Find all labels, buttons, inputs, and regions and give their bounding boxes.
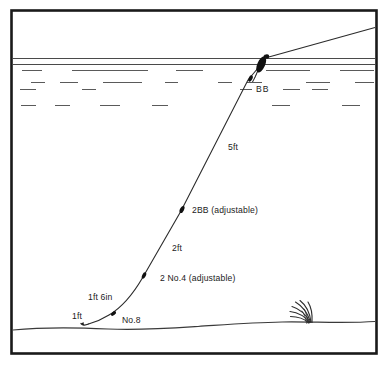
label-2bb-adjustable: 2BB (adjustable) bbox=[192, 205, 258, 215]
label-no8: No.8 bbox=[122, 315, 141, 325]
fishing-rig-diagram: BB 5ft 2BB (adjustable) 2ft 2 No.4 (adju… bbox=[0, 0, 387, 365]
diagram-frame bbox=[12, 11, 377, 354]
label-1ft: 1ft bbox=[72, 311, 82, 321]
label-5ft: 5ft bbox=[228, 142, 238, 152]
label-1ft-6in: 1ft 6in bbox=[88, 292, 113, 302]
label-2-no4-adjustable: 2 No.4 (adjustable) bbox=[160, 273, 235, 283]
label-bb: BB bbox=[256, 84, 269, 94]
rig-illustration: BB 5ft 2BB (adjustable) 2ft 2 No.4 (adju… bbox=[0, 0, 387, 365]
label-2ft: 2ft bbox=[172, 243, 182, 253]
